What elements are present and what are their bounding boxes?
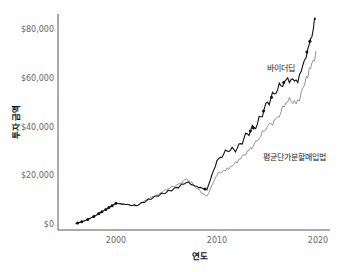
- series-layer: [76, 18, 316, 224]
- dip-marker: [115, 202, 118, 205]
- x-tick-2020: 2020: [308, 236, 328, 245]
- dip-marker: [76, 222, 79, 225]
- dip-marker: [252, 127, 255, 130]
- dip-marker: [100, 210, 103, 213]
- dip-marker: [80, 220, 83, 223]
- dip-marker: [262, 109, 265, 112]
- dip-marker: [111, 204, 114, 207]
- dip-marker: [97, 212, 100, 215]
- y-axis-label: 투자 금액: [11, 105, 21, 140]
- dip-marker: [86, 218, 89, 221]
- y-tick-60000: $60,000: [21, 74, 54, 83]
- dip-marker: [270, 96, 273, 99]
- dip-marker: [203, 188, 206, 191]
- x-axis-label: 연도: [192, 251, 208, 261]
- investment-line-chart: $0 $20,000 $40,000 $60,000 $80,000 2000 …: [0, 0, 355, 272]
- y-tick-0: $0: [44, 220, 54, 229]
- x-tick-2010: 2010: [207, 236, 227, 245]
- series-label-buy-the-dip: 바이더딥: [267, 63, 295, 73]
- x-tick-2000: 2000: [106, 236, 126, 245]
- y-tick-20000: $20,000: [21, 171, 54, 180]
- dip-marker: [305, 50, 308, 53]
- y-tick-80000: $80,000: [21, 25, 54, 34]
- dip-marker: [308, 40, 311, 43]
- series-label-dollar-cost-averaging: 평균단가분할매입법: [263, 152, 326, 162]
- series-line-buy-the-dip: [76, 18, 316, 224]
- dip-marker: [107, 206, 110, 209]
- dip-marker: [282, 81, 285, 84]
- y-tick-40000: $40,000: [21, 123, 54, 132]
- dip-marker: [92, 215, 95, 218]
- dip-marker: [249, 129, 252, 132]
- dip-marker: [104, 208, 107, 211]
- series-line-dollar-cost-averaging: [76, 51, 316, 224]
